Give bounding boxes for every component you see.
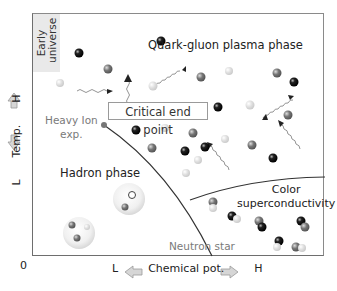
qgp-phase-label: Quark-gluon plasma phase	[148, 38, 303, 52]
critical-end-point-label: Critical end point	[108, 102, 208, 120]
y-axis-label: L Temp. H	[0, 60, 32, 220]
heavy-ion-line2: exp.	[45, 127, 98, 141]
hadron-phase-label: Hadron phase	[60, 166, 140, 180]
x-axis-low: L	[112, 262, 118, 275]
x-axis-label: L Chemical pot. H	[112, 262, 262, 275]
x-axis-title: Chemical pot.	[148, 262, 224, 275]
y-axis-high: H	[10, 94, 23, 102]
x-axis-high: H	[254, 262, 262, 275]
color-superconductivity-label: Color superconductivity	[237, 183, 335, 211]
color-sc-line1: Color	[237, 183, 335, 197]
hadron-particles	[63, 183, 145, 249]
y-axis-title: Temp.	[10, 125, 23, 158]
y-axis-low: L	[10, 179, 23, 185]
origin-label: 0	[20, 259, 27, 272]
neutron-star-label: Neutron star	[169, 240, 235, 252]
color-sc-line2: superconductivity	[237, 197, 335, 211]
heavy-ion-label: Heavy Ion exp.	[45, 113, 98, 141]
heavy-ion-line1: Heavy Ion	[45, 113, 98, 127]
